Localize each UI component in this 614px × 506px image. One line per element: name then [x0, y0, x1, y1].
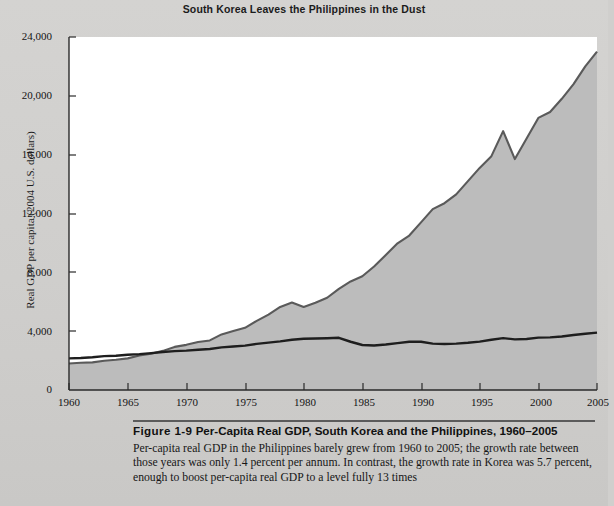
caption-block: Figure 1-9 Per-Capita Real GDP, South Ko…: [133, 424, 595, 485]
chart-plot-svg: [0, 18, 608, 422]
caption-divider: [133, 420, 595, 422]
caption-heading: Figure 1-9 Per-Capita Real GDP, South Ko…: [133, 424, 595, 439]
plot-area: Real GDP per capita (2004 U.S. dollars) …: [0, 18, 608, 422]
caption-heading-text: Per-Capita Real GDP, South Korea and the…: [196, 424, 558, 437]
caption-figure-number: Figure 1-9: [133, 424, 192, 437]
chart-title: South Korea Leaves the Philippines in th…: [0, 3, 608, 15]
caption-body: Per-capita real GDP in the Philippines b…: [133, 442, 595, 486]
